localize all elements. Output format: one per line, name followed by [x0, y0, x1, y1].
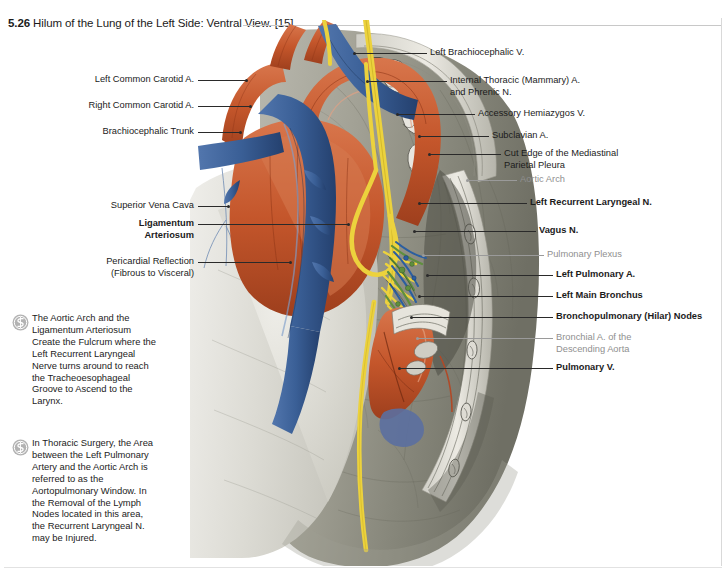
leader-dot-aortic-arch [466, 179, 469, 182]
label-right-common-carotid-a: Right Common Carotid A. [18, 100, 194, 112]
leader-aortic-arch [468, 180, 517, 181]
leader-pulmonary-v [400, 368, 553, 369]
leader-dot-left-recurrent-laryngeal-n [418, 202, 421, 205]
leader-dot-pulmonary-v [398, 367, 401, 370]
leader-dot-brachiocephalic-trunk [239, 131, 242, 134]
leader-left-brachiocephalic-v [355, 53, 427, 54]
leader-dot-superior-vena-cava [227, 205, 230, 208]
leader-ligamentum-arteriosum [198, 224, 348, 225]
leader-vagus-n [415, 231, 536, 232]
leader-cut-edge-mediastinal-parietal-pleura [430, 154, 501, 155]
leader-pericardial-reflection [198, 262, 290, 263]
clinical-note-text: In Thoracic Surgery, the Area between th… [32, 437, 158, 544]
label-subclavian-a: Subclavian A. [492, 130, 548, 142]
leader-dot-internal-thoracic-a-phrenic-n [366, 80, 369, 83]
leader-dot-pulmonary-plexus [422, 254, 425, 257]
leader-left-common-carotid-a [198, 80, 246, 81]
leader-brachiocephalic-trunk [198, 132, 240, 133]
figure-page: 5.26 Hilum of the Lung of the Left Side:… [0, 0, 726, 574]
leader-right-common-carotid-a [198, 106, 250, 107]
leader-dot-subclavian-a [418, 135, 421, 138]
page-border-right [721, 18, 722, 566]
label-internal-thoracic-a-phrenic-n: Internal Thoracic (Mammary) A. and Phren… [450, 75, 580, 98]
label-brachiocephalic-trunk: Brachiocephalic Trunk [18, 126, 194, 138]
label-left-common-carotid-a: Left Common Carotid A. [18, 74, 194, 86]
leader-left-main-bronchus [420, 296, 553, 297]
leader-dot-bronchial-a-descending-aorta [416, 337, 419, 340]
leader-dot-left-pulmonary-a [426, 274, 429, 277]
leader-dot-bronchopulmonary-hilar-nodes [410, 316, 413, 319]
label-cut-edge-mediastinal-parietal-pleura: Cut Edge of the Mediastinal Parietal Ple… [504, 148, 618, 171]
label-aortic-arch: Aortic Arch [520, 174, 565, 186]
label-pulmonary-plexus: Pulmonary Plexus [547, 249, 622, 261]
leader-bronchopulmonary-hilar-nodes [412, 317, 553, 318]
leader-dot-ligamentum-arteriosum [347, 223, 350, 226]
leader-dot-accessory-hemiazygos-v [396, 113, 399, 116]
figure-number: 5.26 [8, 17, 30, 29]
label-pericardial-reflection: Pericardial Reflection (Fibrous to Visce… [12, 256, 194, 279]
label-bronchopulmonary-hilar-nodes: Bronchopulmonary (Hilar) Nodes [556, 311, 702, 323]
label-left-pulmonary-a: Left Pulmonary A. [556, 269, 635, 281]
clinical-note-text: The Aortic Arch and the Ligamentum Arter… [32, 312, 158, 407]
label-ligamentum-arteriosum: Ligamentum Arteriosum [18, 218, 194, 241]
clinical-note-icon [12, 439, 29, 456]
leader-pulmonary-plexus [424, 255, 544, 256]
leader-superior-vena-cava [198, 206, 228, 207]
leader-accessory-hemiazygos-v [398, 114, 475, 115]
leader-dot-right-common-carotid-a [249, 105, 252, 108]
label-left-brachiocephalic-v: Left Brachiocephalic V. [430, 47, 524, 59]
leader-dot-pericardial-reflection [289, 261, 292, 264]
leader-dot-left-common-carotid-a [245, 79, 248, 82]
leader-left-recurrent-laryngeal-n [420, 203, 527, 204]
anatomical-illustration [178, 20, 546, 566]
label-left-recurrent-laryngeal-n: Left Recurrent Laryngeal N. [530, 197, 652, 209]
label-bronchial-a-descending-aorta: Bronchial A. of the Descending Aorta [556, 332, 631, 355]
leader-dot-cut-edge [428, 153, 431, 156]
leader-dot-vagus-n [413, 230, 416, 233]
leader-dot-left-main-bronchus [418, 295, 421, 298]
leader-bronchial-a-descending-aorta [418, 338, 553, 339]
label-pulmonary-v: Pulmonary V. [556, 362, 615, 374]
leader-left-pulmonary-a [428, 275, 553, 276]
label-left-main-bronchus: Left Main Bronchus [556, 290, 643, 302]
label-accessory-hemiazygos-v: Accessory Hemiazygos V. [478, 108, 585, 120]
leader-internal-thoracic-a-phrenic-n [368, 81, 447, 82]
leader-subclavian-a [420, 136, 489, 137]
clinical-note-icon [12, 314, 29, 331]
leader-dot-left-brachiocephalic-v [353, 52, 356, 55]
label-superior-vena-cava: Superior Vena Cava [18, 200, 194, 212]
label-vagus-n: Vagus N. [539, 225, 578, 237]
page-border-bottom [4, 567, 722, 568]
